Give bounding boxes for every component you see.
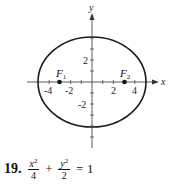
x-tick-label-neg2: -2 [65,85,73,96]
x-axis-label: x [160,76,166,87]
problem-equation: 19. x2 4 + y2 2 = 1 [4,152,93,186]
focus-point-1 [57,80,62,85]
x-axis-arrow-icon [152,80,159,85]
plus-sign: + [45,162,52,177]
y-tick-label-neg2: -2 [78,99,86,110]
fraction-y: y2 2 [58,158,70,181]
rhs-value: 1 [87,161,94,177]
focus-label-1: F1 [55,67,67,81]
y-axis-label: y [88,2,94,13]
x-tick-label-2: 2 [111,85,116,96]
y-axis-arrow-icon [90,13,95,20]
focus-label-2: F2 [119,67,131,81]
x-tick-label-4: 4 [132,85,137,96]
x-tick-label-neg4: -4 [44,85,52,96]
equals-sign: = [76,162,83,177]
y-tick-label-2: 2 [83,55,88,66]
problem-number: 19. [4,161,22,177]
ellipse-graph: x y -4 -2 2 4 2 -2 F1 F2 [0,0,177,150]
fraction-x: x2 4 [28,158,40,181]
